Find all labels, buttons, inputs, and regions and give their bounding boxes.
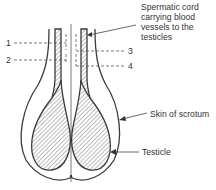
skin-leader: [122, 113, 147, 119]
marker-1: 1: [6, 38, 11, 48]
spermatic-cord-arrow: [87, 32, 92, 37]
scrotum-diagram: 1 2 3 4 Spermatic cord carrying blood ve…: [0, 0, 216, 190]
testicle-label: Testicle: [142, 147, 171, 157]
marker-3: 3: [128, 46, 133, 56]
skin-of-scrotum-label: Skin of scrotum: [150, 109, 209, 119]
marker-4: 4: [128, 61, 133, 71]
spermatic-cord-leader: [89, 25, 136, 35]
left-testicle: [32, 80, 71, 170]
marker-2: 2: [6, 55, 11, 65]
skin-arrow: [119, 116, 126, 121]
spermatic-cord-label: Spermatic cord carrying blood vessels to…: [141, 2, 201, 42]
right-testicle: [72, 80, 111, 170]
